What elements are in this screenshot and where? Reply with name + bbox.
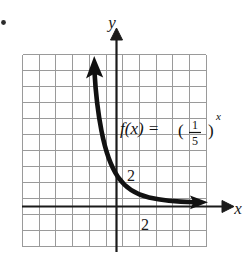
formula-denominator: 5 [192,134,198,148]
formula-exponent: x [215,110,221,122]
formula-open-paren: ( [178,121,184,140]
x-axis-arrowhead [222,201,234,213]
graph-canvas: y x 2 2 f(x) = ( ) 1 5 x [0,0,249,254]
axes [22,28,234,252]
formula-close-paren: ) [208,121,214,140]
grid-lines [23,55,207,247]
formula-fx: f(x) = [120,119,159,138]
y-axis-label: y [106,13,116,32]
formula-numerator: 1 [192,118,198,132]
exponential-function-figure: y x 2 2 f(x) = ( ) 1 5 x [0,0,249,254]
page-speck-icon [1,20,6,25]
y-tick-label-2: 2 [127,167,135,184]
x-tick-label-2: 2 [141,216,149,233]
x-axis-label: x [233,199,242,218]
